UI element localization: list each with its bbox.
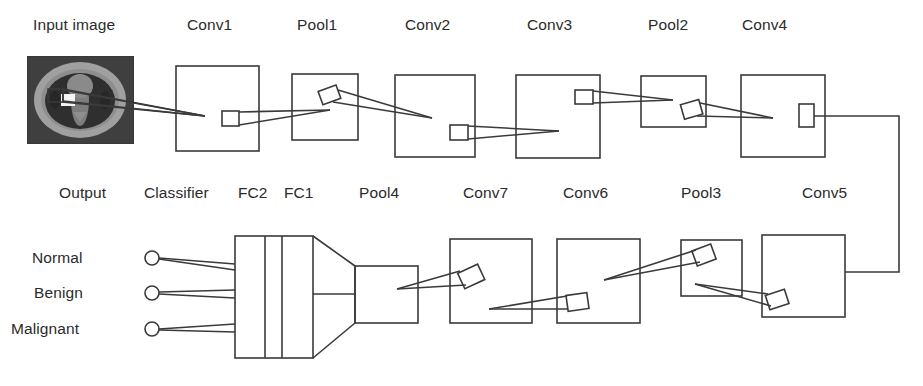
label-conv5: Conv5: [802, 184, 847, 202]
cone-pool1-conv2: [318, 85, 432, 118]
cone-input-conv1: [48, 89, 205, 116]
label-conv1: Conv1: [187, 16, 232, 34]
label-conv6: Conv6: [563, 184, 608, 202]
label-output: Output: [59, 184, 106, 202]
label-conv3: Conv3: [527, 16, 572, 34]
cone-conv3-pool2: [575, 90, 673, 104]
pool1-block: [292, 74, 358, 140]
conv5-block: [762, 235, 845, 317]
cnn-architecture-diagram: Input image Conv1 Pool1 Conv2 Conv3 Pool…: [0, 0, 923, 386]
conv4-feature-box: [799, 104, 814, 127]
conv1-block: [176, 66, 259, 151]
cone-conv7-pool4: [397, 264, 485, 289]
cone-conv1-pool1: [222, 110, 330, 126]
label-class-benign: Benign: [34, 284, 83, 302]
label-input-image: Input image: [33, 16, 115, 34]
conv3-block: [516, 75, 600, 158]
label-classifier: Classifier: [144, 184, 209, 202]
pool4-block: [355, 266, 418, 323]
cone-pool2-conv4: [680, 100, 773, 120]
label-pool3: Pool3: [681, 184, 721, 202]
cone-conv6-conv7: [489, 293, 589, 312]
label-fc1: FC1: [284, 184, 314, 202]
label-pool1: Pool1: [297, 16, 337, 34]
label-fc2: FC2: [238, 184, 268, 202]
output-node-malignant: [145, 322, 235, 336]
classifier-funnel: [313, 236, 355, 358]
fc-stack: [235, 236, 313, 358]
label-conv2: Conv2: [405, 16, 450, 34]
label-conv7: Conv7: [463, 184, 508, 202]
label-class-normal: Normal: [32, 249, 83, 267]
label-class-malignant: Malignant: [11, 320, 79, 338]
label-pool2: Pool2: [648, 16, 688, 34]
output-node-normal: [145, 251, 235, 270]
label-pool4: Pool4: [359, 184, 399, 202]
conv2-block: [395, 75, 475, 157]
cone-pool3-conv6: [604, 244, 716, 280]
conv4-block: [741, 75, 825, 157]
output-node-benign: [145, 286, 235, 300]
label-conv4: Conv4: [742, 16, 787, 34]
cone-conv2-conv3: [450, 125, 559, 140]
conv7-block: [450, 239, 532, 323]
diagram-canvas: [0, 0, 923, 386]
